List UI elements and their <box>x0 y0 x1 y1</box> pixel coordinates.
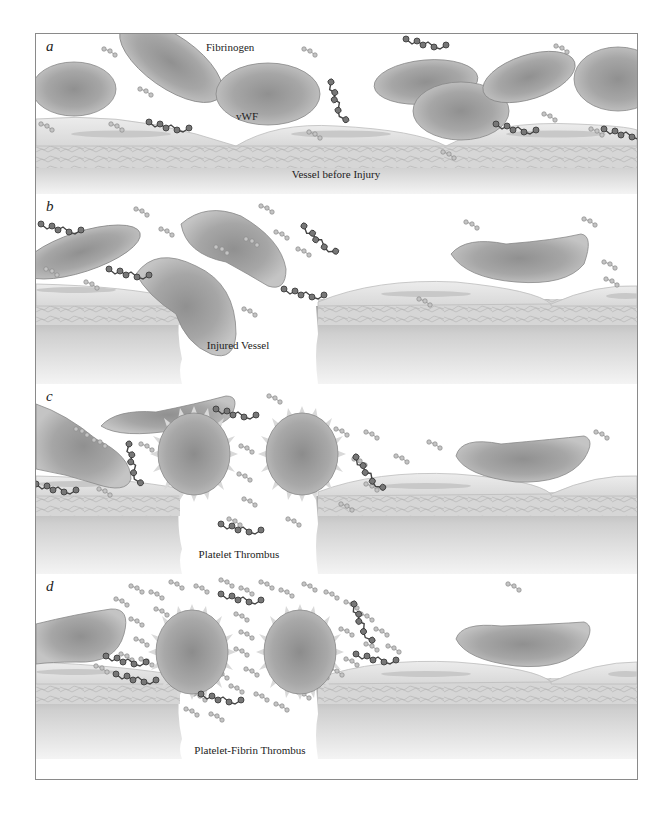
panel-a: a Fibrinogen vWF Vessel before Injury <box>36 34 637 194</box>
panel-letter-c: c <box>46 388 53 405</box>
panel-d: d Platelet-Fibrin Thrombus <box>36 574 637 780</box>
platelet-thrombus-illustration <box>36 384 637 574</box>
injured-vessel-illustration <box>36 194 637 384</box>
panel-c: c Platelet Thrombus <box>36 384 637 574</box>
caption-platelet-fibrin-thrombus: Platelet-Fibrin Thrombus <box>194 744 305 756</box>
panel-letter-b: b <box>46 198 54 215</box>
caption-vessel-before-injury: Vessel before Injury <box>292 168 381 180</box>
panel-letter-d: d <box>46 578 54 595</box>
panel-letter-a: a <box>46 38 54 55</box>
platelet-fibrin-thrombus-illustration <box>36 574 637 780</box>
caption-platelet-thrombus: Platelet Thrombus <box>199 548 280 560</box>
panel-b: b Injured Vessel <box>36 194 637 384</box>
fibrinogen-callout: Fibrinogen <box>206 41 254 53</box>
caption-injured-vessel: Injured Vessel <box>207 339 269 351</box>
figure-frame: a Fibrinogen vWF Vessel before Injury <box>35 33 638 780</box>
vwf-callout: vWF <box>236 110 258 122</box>
